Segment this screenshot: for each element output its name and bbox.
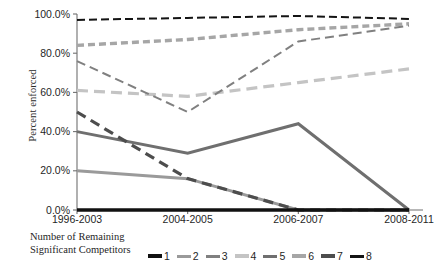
series-line-6: [77, 24, 409, 46]
legend-item-3[interactable]: 3: [206, 251, 228, 262]
series-line-8: [77, 16, 409, 20]
x-axis-tick-labels: 1996-20032004-20052006-20072008-2011: [77, 213, 409, 231]
y-tick-label: 100.0%: [14, 9, 70, 20]
legend-label-8: 8: [366, 251, 372, 262]
legend-item-2[interactable]: 2: [177, 251, 199, 262]
y-axis-tick-labels: 0.0%20.0%40.0%60.0%80.0%100.0%: [14, 0, 70, 269]
legend-items: 12345678: [148, 248, 372, 264]
legend-item-8[interactable]: 8: [350, 251, 372, 262]
series-line-5: [77, 124, 409, 210]
series-line-2: [77, 171, 409, 210]
y-tick-label: 20.0%: [14, 165, 70, 176]
legend-swatch-3: [206, 255, 220, 258]
plot-svg: [77, 14, 409, 210]
legend-label-5: 5: [279, 251, 285, 262]
x-tick-label: 1996-2003: [52, 213, 102, 225]
legend-swatch-7: [321, 254, 335, 257]
legend-swatch-5: [263, 255, 277, 258]
y-tick-label: 80.0%: [14, 48, 70, 59]
y-tick-label: 60.0%: [14, 87, 70, 98]
y-tick-label: 40.0%: [14, 126, 70, 137]
legend-label-7: 7: [337, 251, 343, 262]
legend-label-3: 3: [222, 251, 228, 262]
legend-item-1[interactable]: 1: [148, 251, 170, 262]
legend-label-2: 2: [193, 251, 199, 262]
series-line-4: [77, 69, 409, 96]
legend-label-1: 1: [164, 251, 170, 262]
x-tick-label: 2008-2011: [384, 213, 433, 225]
legend-swatch-2: [177, 255, 191, 258]
legend-label-4: 4: [251, 251, 257, 262]
legend-swatch-6: [292, 254, 306, 257]
legend-title-line-2: Significant Competitors: [30, 244, 131, 255]
series-line-3: [77, 26, 409, 112]
legend-item-4[interactable]: 4: [235, 251, 257, 262]
legend-label-6: 6: [308, 251, 314, 262]
legend-swatch-1: [148, 254, 162, 257]
legend-item-7[interactable]: 7: [321, 251, 343, 262]
legend-item-6[interactable]: 6: [292, 251, 314, 262]
plot-area: [77, 14, 409, 210]
legend-item-5[interactable]: 5: [263, 251, 285, 262]
chart-legend: Number of Remaining Significant Competit…: [30, 231, 420, 269]
x-tick-label: 2004-2005: [163, 213, 213, 225]
legend-title-line-1: Number of Remaining: [30, 231, 124, 242]
legend-title: Number of Remaining Significant Competit…: [30, 231, 150, 256]
x-tick-label: 2006-2007: [273, 213, 323, 225]
legend-swatch-4: [235, 254, 249, 257]
legend-swatch-8: [350, 255, 364, 258]
